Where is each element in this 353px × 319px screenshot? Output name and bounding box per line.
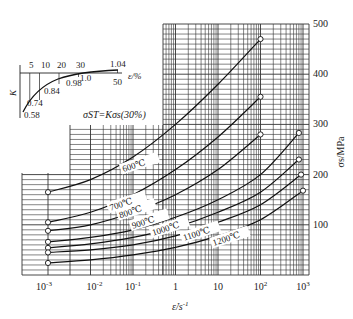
endpoint-marker	[45, 239, 50, 244]
endpoint-marker	[258, 132, 263, 137]
inset-x-tick: 20	[57, 60, 67, 70]
inset-x-tick: 30	[76, 60, 86, 70]
x-tick-label: 10	[213, 281, 223, 292]
x-tick-label: 103	[296, 280, 310, 292]
inset-x-tick: 10	[41, 60, 51, 70]
x-axis-label: ε̇/s-1	[172, 300, 188, 312]
inset-point-label: 0.58	[24, 110, 40, 120]
y-tick-label: 300	[313, 118, 328, 129]
inset-point-label: 0.74	[27, 98, 43, 108]
inset-x-label: ε/%	[128, 71, 142, 81]
endpoint-marker	[258, 36, 263, 41]
endpoint-marker	[296, 157, 301, 162]
endpoint-marker	[300, 188, 305, 193]
endpoint-marker	[45, 220, 50, 225]
x-tick-label: 10-3	[36, 280, 52, 292]
y-axis-label: σs/MPa	[335, 136, 346, 168]
x-tick-label: 10-2	[87, 280, 103, 292]
x-tick-label: 1	[173, 281, 178, 292]
inset-point-label: 1.04	[110, 59, 126, 69]
y-tick-label: 400	[313, 68, 328, 79]
endpoint-marker	[296, 130, 301, 135]
endpoint-marker	[45, 260, 50, 265]
endpoint-marker	[45, 250, 50, 255]
inset-x-tick: 5	[29, 60, 34, 70]
y-tick-label: 100	[313, 219, 328, 230]
inset-point-label: 1.0	[80, 73, 92, 83]
flow-stress-chart: 10-310-210-1110102103ε̇/s-11002003004005…	[0, 0, 353, 319]
y-tick-label: 200	[313, 169, 328, 180]
x-tick-label: 10-1	[125, 280, 141, 292]
endpoint-marker	[258, 94, 263, 99]
y-tick-label: 500	[313, 18, 328, 29]
endpoint-marker	[45, 228, 50, 233]
inset-point-label: 0.84	[44, 86, 60, 96]
inset-x-tick: 50	[113, 77, 123, 87]
formula: σST=Kσs(30%)	[83, 109, 146, 121]
endpoint-marker	[298, 172, 303, 177]
inset-y-label: K	[8, 89, 18, 97]
endpoint-marker	[45, 190, 50, 195]
x-tick-label: 102	[254, 280, 268, 292]
